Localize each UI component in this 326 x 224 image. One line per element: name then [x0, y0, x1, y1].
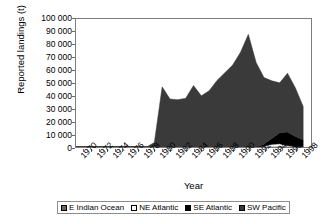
legend-item[interactable]: E Indian Ocean	[61, 204, 124, 212]
chart-legend: E Indian OceanNE AtlanticSE AtlanticSW P…	[57, 201, 290, 214]
legend-label: SW Pacific	[247, 204, 286, 212]
legend-swatch-icon	[239, 205, 245, 211]
x-axis-tick-label: 1998	[300, 141, 320, 161]
legend-label: E Indian Ocean	[69, 204, 124, 212]
x-axis-title: Year	[75, 180, 312, 191]
legend-label: SE Atlantic	[193, 204, 232, 212]
legend-item[interactable]: SE Atlantic	[185, 204, 232, 212]
legend-item[interactable]: NE Atlantic	[131, 204, 178, 212]
chart-container: Reported landings (t) 100 00090 00080 00…	[0, 0, 326, 224]
legend-swatch-icon	[185, 205, 191, 211]
legend-swatch-icon	[61, 205, 67, 211]
legend-swatch-icon	[131, 205, 137, 211]
legend-item[interactable]: SW Pacific	[239, 204, 286, 212]
legend-label: NE Atlantic	[139, 204, 178, 212]
